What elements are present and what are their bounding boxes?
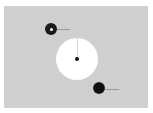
dot-tail-line: [105, 89, 119, 90]
ring-hole: [50, 28, 53, 31]
dark-dot-object: [93, 82, 105, 94]
ring-tail-line: [57, 29, 70, 30]
needle-line: [77, 37, 78, 57]
center-dot: [75, 57, 79, 61]
